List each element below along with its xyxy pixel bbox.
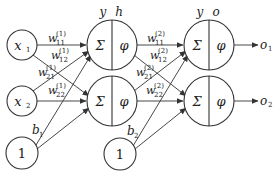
output-label: o bbox=[260, 38, 267, 52]
weight-superscript: (2) bbox=[144, 64, 154, 72]
weight-superscript: (1) bbox=[56, 82, 66, 90]
activation-symbol: φ bbox=[119, 38, 129, 53]
weight-label-w22-1: w (1) 22 bbox=[48, 82, 66, 99]
weight-superscript: (1) bbox=[46, 64, 56, 72]
weight-superscript: (1) bbox=[59, 47, 69, 55]
input-node-x1: x 1 bbox=[7, 30, 37, 60]
hidden-node-1: Σ φ bbox=[87, 20, 137, 70]
weight-superscript: (2) bbox=[154, 82, 164, 90]
activation-symbol: φ bbox=[216, 38, 226, 53]
output-layer-header: y o bbox=[196, 5, 220, 19]
input-label: x bbox=[14, 38, 22, 53]
input-node-x2: x 2 bbox=[7, 86, 37, 116]
sum-symbol: Σ bbox=[191, 94, 202, 109]
weight-label-w21-2: w (2) 21 bbox=[136, 64, 154, 81]
weight-subscript: 11 bbox=[56, 39, 65, 47]
output-header-o: o bbox=[212, 5, 219, 19]
hidden-header-h: h bbox=[115, 5, 123, 19]
weight-superscript: (2) bbox=[155, 30, 165, 38]
weight-superscript: (1) bbox=[56, 30, 66, 38]
hidden-node-2: Σ φ bbox=[87, 76, 137, 126]
input-subscript: 2 bbox=[26, 102, 30, 110]
output-header-y: y bbox=[196, 5, 204, 19]
bias-node-1: 1 b 1 bbox=[6, 123, 43, 169]
weight-subscript: 12 bbox=[59, 56, 68, 64]
hidden-header-y: y bbox=[99, 5, 107, 19]
sum-symbol: Σ bbox=[94, 38, 105, 53]
weight-label-w21-1: w (1) 21 bbox=[38, 64, 56, 81]
sum-symbol: Σ bbox=[191, 38, 202, 53]
output-subscript: 1 bbox=[268, 45, 272, 53]
weight-label-w12-2: w (2) 12 bbox=[150, 47, 168, 64]
edge-b1-h2 bbox=[37, 108, 89, 149]
output-label-o2: o 2 bbox=[260, 94, 272, 109]
weight-subscript: 22 bbox=[56, 91, 65, 99]
output-node-2: Σ φ bbox=[184, 76, 234, 126]
output-label: o bbox=[260, 94, 267, 108]
svg-text:x: x bbox=[14, 38, 22, 53]
output-subscript: 2 bbox=[268, 101, 272, 109]
input-label: x bbox=[14, 94, 22, 109]
bias-subscript: 2 bbox=[134, 132, 138, 140]
output-label-o1: o 1 bbox=[260, 38, 272, 53]
weight-label-w12-1: w (1) 12 bbox=[51, 47, 69, 64]
activation-symbol: φ bbox=[119, 94, 129, 109]
edge-b2-o2 bbox=[135, 108, 186, 149]
weight-subscript: 21 bbox=[144, 73, 153, 81]
weight-superscript: (2) bbox=[158, 47, 168, 55]
neural-network-diagram: x 1 x 2 1 b 1 1 b 2 y h Σ φ Σ φ y o bbox=[0, 0, 276, 175]
weight-label-w22-2: w (2) 22 bbox=[146, 82, 164, 99]
weight-label-w11-1: w (1) 11 bbox=[48, 30, 66, 47]
weight-subscript: 22 bbox=[154, 91, 163, 99]
weight-label-w11-2: w (2) 11 bbox=[147, 30, 165, 47]
weight-subscript: 12 bbox=[158, 56, 167, 64]
bias-node-2: 1 b 2 bbox=[104, 124, 138, 170]
activation-symbol: φ bbox=[216, 94, 226, 109]
bias-subscript: 1 bbox=[39, 131, 43, 139]
input-subscript: 1 bbox=[26, 46, 30, 54]
bias-value: 1 bbox=[18, 146, 26, 161]
sum-symbol: Σ bbox=[94, 94, 105, 109]
weight-subscript: 11 bbox=[155, 39, 164, 47]
output-node-1: Σ φ bbox=[184, 20, 234, 70]
hidden-layer-header: y h bbox=[99, 5, 123, 19]
bias-value: 1 bbox=[116, 147, 124, 162]
weight-subscript: 21 bbox=[46, 73, 55, 81]
svg-text:x: x bbox=[14, 94, 22, 109]
